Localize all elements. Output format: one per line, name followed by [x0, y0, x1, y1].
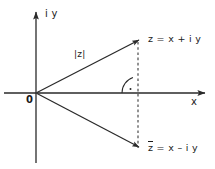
angle-dot: [130, 88, 132, 90]
real-axis-label: x: [191, 97, 197, 107]
z-conjugate-expression: = x – i y: [153, 142, 198, 153]
modulus-label: |z|: [74, 50, 86, 59]
origin-label: 0: [26, 95, 33, 105]
imaginary-axis-label: i y: [45, 9, 58, 19]
z-conjugate-point-label: z = x – i y: [148, 143, 198, 153]
z-bar-symbol: z: [148, 143, 153, 153]
angle-arc: [122, 78, 133, 94]
complex-plane-diagram: i y x 0 |z| z = x + i y z = x – i y: [0, 0, 215, 169]
z-point-label: z = x + i y: [148, 34, 201, 44]
vector-z-conjugate: [37, 94, 139, 148]
